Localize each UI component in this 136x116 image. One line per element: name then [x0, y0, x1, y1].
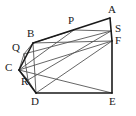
geometry-figure: ABCDEFSPQR — [0, 0, 136, 116]
vertex-label-f: F — [115, 35, 121, 46]
vertex-label-b: B — [27, 28, 34, 39]
vertex-label-d: D — [31, 96, 39, 107]
edge-R-S — [28, 31, 111, 80]
vertex-label-s: S — [115, 23, 121, 34]
vertex-label-p: P — [68, 15, 74, 26]
vertex-label-c: C — [5, 62, 12, 73]
vertex-label-a: A — [108, 4, 116, 15]
edge-S-P-top — [74, 30, 111, 31]
interior-edges-group — [19, 30, 112, 93]
vertex-label-e: E — [109, 96, 116, 107]
edge-F-A — [110, 18, 112, 41]
vertex-label-r: R — [21, 76, 28, 87]
vertex-label-q: Q — [12, 42, 20, 53]
